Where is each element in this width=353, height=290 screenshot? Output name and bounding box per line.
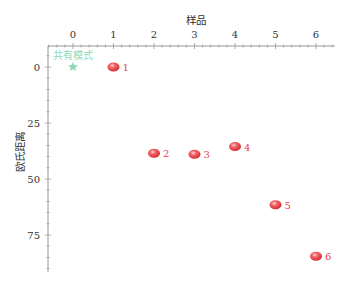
data-point bbox=[229, 142, 241, 151]
reference-group: 共有模式 bbox=[53, 49, 93, 71]
data-point bbox=[189, 150, 201, 159]
y-tick-label: 50 bbox=[27, 174, 40, 185]
x-tick-label: 6 bbox=[313, 29, 319, 40]
data-point-label: 1 bbox=[123, 62, 129, 73]
points: 123456 bbox=[108, 62, 332, 262]
reference-label: 共有模式 bbox=[53, 49, 93, 61]
x-tick-label: 4 bbox=[232, 29, 238, 40]
x-axis-title: 样品 bbox=[186, 14, 206, 26]
y-tick-label: 75 bbox=[27, 230, 40, 241]
data-point-label: 5 bbox=[285, 200, 291, 211]
data-point bbox=[108, 63, 120, 72]
x-tick-label: 2 bbox=[151, 29, 157, 40]
y-tick-label: 0 bbox=[34, 62, 40, 73]
data-point bbox=[148, 149, 160, 158]
x-tick-label: 3 bbox=[191, 29, 197, 40]
data-point-label: 6 bbox=[325, 251, 331, 262]
data-point-label: 3 bbox=[204, 149, 210, 160]
y-axis-title: 欧氏距离 bbox=[14, 132, 26, 172]
x-tick-label: 5 bbox=[272, 29, 278, 40]
y-tick-label: 25 bbox=[27, 118, 40, 129]
data-point bbox=[270, 200, 282, 209]
data-point bbox=[310, 252, 322, 261]
axes bbox=[48, 46, 335, 272]
data-point-label: 4 bbox=[244, 142, 250, 153]
data-point-label: 2 bbox=[163, 148, 169, 159]
reference-star-marker bbox=[68, 62, 78, 71]
x-tick-label: 0 bbox=[70, 29, 76, 40]
x-tick-label: 1 bbox=[110, 29, 116, 40]
scatter-chart: 01234560255075 样品 欧氏距离 共有模式 123456 bbox=[0, 0, 353, 290]
